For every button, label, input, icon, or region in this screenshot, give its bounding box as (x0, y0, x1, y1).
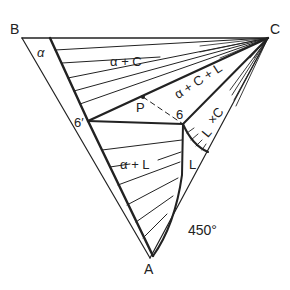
point-6-label: 6 (176, 108, 183, 121)
vertex-b-label: B (10, 22, 19, 36)
ternary-phase-diagram: B C A α α + C α + C + L ×C L α + L L P 6… (0, 0, 290, 290)
diagram-lines (0, 0, 290, 290)
temperature-label: 450° (188, 223, 217, 237)
region-alpha-l-label: α + L (120, 158, 150, 171)
alpha-boundary (50, 38, 153, 256)
vertex-a-label: A (144, 262, 153, 276)
point-6-prime-label: 6′ (74, 116, 84, 129)
point-p-marker (141, 95, 145, 99)
region-liquid-label: L (189, 158, 196, 171)
region-alpha-label: α (37, 46, 44, 59)
edge-ba (22, 38, 150, 258)
region-alpha-c-label: α + C (110, 55, 142, 68)
point-p-label: P (136, 101, 145, 114)
vertex-c-label: C (270, 22, 280, 36)
liquidus-alpha (153, 124, 183, 256)
tie-line-6prime-6 (88, 121, 183, 124)
